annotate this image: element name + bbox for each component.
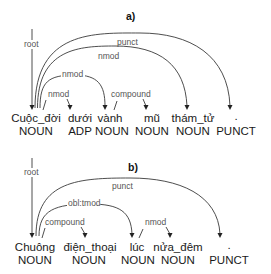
arc-label-nmod-thamtu-a: nmod: [98, 51, 120, 61]
token-word: .: [227, 239, 230, 251]
token-pos: NOUN: [135, 125, 169, 137]
arc-label-nmod-vanh-a: nmod: [62, 69, 84, 79]
arc-label-compound-a: compound: [111, 89, 151, 99]
dependency-diagram: a) root punct nmod nmod: [0, 0, 271, 274]
token-pos: ADP: [68, 125, 92, 137]
token-pos: NOUN: [121, 254, 155, 266]
token-pos: NOUN: [72, 254, 106, 266]
arc-label-root-a: root: [24, 39, 39, 49]
arc-label-obltmod-b: obl:tmod: [68, 198, 101, 208]
panel-b-title: b): [128, 161, 138, 173]
token-word: Cuộc_đời: [11, 112, 61, 124]
panel-a-title: a): [126, 10, 135, 22]
arc-label-root-b: root: [24, 167, 39, 177]
tokens-b: Chuông NOUN điện_thoại NOUN lúc NOUN nửa…: [15, 239, 249, 266]
token-word: nửa_đêm: [153, 241, 202, 253]
token-word: .: [234, 110, 237, 122]
token-pos: PUNCT: [209, 254, 249, 266]
arc-root-b: root: [23, 158, 41, 238]
token-word: dưới: [68, 112, 92, 124]
token-pos: NOUN: [19, 125, 53, 137]
token-pos: NOUN: [176, 125, 210, 137]
arc-label-compound-b: compound: [45, 217, 85, 227]
arc-label-punct-b: punct: [112, 181, 133, 191]
arc-label-punct-a: punct: [117, 37, 138, 47]
token-word: điện_thoại: [63, 241, 116, 253]
token-word: thám_tử: [172, 112, 215, 124]
arc-nmod-b: nmod: [139, 217, 173, 238]
tokens-a: Cuộc_đời NOUN dưới ADP vành NOUN mũ NOUN…: [11, 110, 256, 137]
token-pos: NOUN: [95, 125, 129, 137]
token-word: mũ: [144, 112, 160, 124]
arc-punct-b: punct: [36, 178, 223, 238]
token-pos: NOUN: [161, 254, 195, 266]
panel-a: a) root punct nmod nmod: [11, 10, 256, 137]
token-pos: PUNCT: [216, 125, 256, 137]
arc-compound-a: compound: [111, 89, 151, 110]
panel-b: b) root punct obl:tmod compound: [15, 158, 249, 266]
arc-label-nmod-b: nmod: [145, 217, 167, 227]
arc-nmod-thamtu-a: nmod: [38, 46, 190, 110]
token-word: Chuông: [15, 241, 55, 253]
arc-compound-b: compound: [42, 217, 88, 238]
arc-nmod-duoi-a: nmod: [43, 89, 73, 110]
token-word: vành: [98, 112, 123, 124]
token-word: lúc: [130, 241, 145, 253]
token-pos: NOUN: [18, 254, 52, 266]
arc-label-nmod-duoi-a: nmod: [48, 89, 70, 99]
